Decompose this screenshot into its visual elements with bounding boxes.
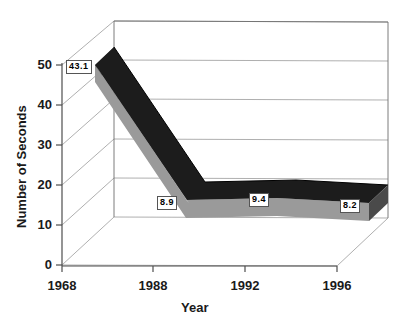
- x-tick-label-1996: 1996: [310, 278, 364, 293]
- data-label-1992: 9.4: [249, 193, 269, 207]
- x-tick-label-1968: 1968: [35, 278, 89, 293]
- chart-container: 50 40 30 20 10 0 1968 1988 1992 1996 Num…: [0, 0, 405, 327]
- y-axis-ticks: [56, 65, 62, 265]
- data-label-1968: 43.1: [66, 60, 92, 74]
- x-axis-title: Year: [181, 300, 208, 315]
- data-label-1988: 8.9: [157, 196, 177, 210]
- y-tick-label-0: 0: [18, 257, 52, 272]
- y-axis-title: Number of Seconds: [14, 105, 29, 228]
- x-tick-label-1992: 1992: [218, 278, 272, 293]
- y-tick-label-50: 50: [18, 57, 52, 72]
- data-label-1996: 8.2: [340, 199, 360, 213]
- floor-panel: [62, 217, 388, 266]
- x-axis-ticks: [62, 266, 337, 272]
- x-tick-label-1988: 1988: [126, 278, 180, 293]
